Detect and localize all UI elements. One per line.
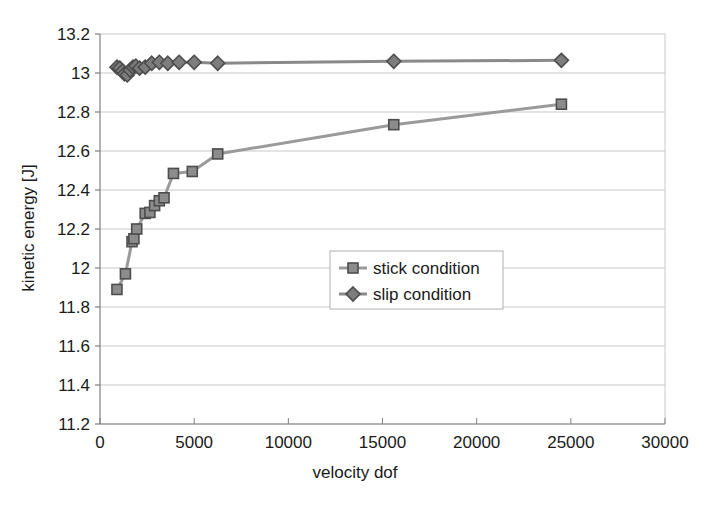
x-tick-label: 5000 bbox=[175, 433, 213, 452]
x-tick-label: 0 bbox=[95, 433, 104, 452]
chart-legend: stick conditionslip condition bbox=[330, 251, 503, 309]
chart-plot: 11.211.411.611.81212.212.412.612.81313.2… bbox=[0, 0, 712, 508]
marker-square bbox=[159, 193, 169, 203]
marker-square bbox=[187, 166, 197, 176]
y-tick-label: 12.4 bbox=[57, 181, 90, 200]
y-tick-label: 13.2 bbox=[57, 25, 90, 44]
y-tick-label: 11.2 bbox=[58, 415, 90, 434]
y-tick-label: 12.8 bbox=[57, 103, 90, 122]
marker-square bbox=[213, 149, 223, 159]
x-tick-label: 30000 bbox=[641, 433, 688, 452]
marker-square bbox=[389, 120, 399, 130]
marker-square bbox=[129, 234, 139, 244]
marker-square bbox=[556, 99, 566, 109]
y-tick-label: 12.6 bbox=[57, 142, 90, 161]
marker-square bbox=[168, 168, 178, 178]
marker-square bbox=[132, 224, 142, 234]
y-axis-title: kinetic energy [J] bbox=[19, 164, 38, 292]
y-tick-label: 12.2 bbox=[57, 220, 90, 239]
legend-marker-square bbox=[348, 263, 358, 273]
y-tick-label: 11.8 bbox=[58, 298, 90, 317]
y-tick-label: 11.4 bbox=[58, 376, 90, 395]
x-tick-label: 10000 bbox=[265, 433, 312, 452]
x-tick-label: 20000 bbox=[453, 433, 500, 452]
x-tick-label: 15000 bbox=[359, 433, 406, 452]
chart-container: 11.211.411.611.81212.212.412.612.81313.2… bbox=[0, 0, 712, 508]
y-tick-label: 12 bbox=[71, 259, 90, 278]
marker-square bbox=[112, 284, 122, 294]
legend-label-0: stick condition bbox=[373, 259, 480, 278]
x-axis-title: velocity dof bbox=[312, 463, 397, 482]
y-tick-label: 11.6 bbox=[58, 337, 90, 356]
y-tick-label: 13 bbox=[71, 64, 90, 83]
x-tick-label: 25000 bbox=[547, 433, 594, 452]
legend-label-1: slip condition bbox=[373, 285, 471, 304]
marker-square bbox=[120, 269, 130, 279]
